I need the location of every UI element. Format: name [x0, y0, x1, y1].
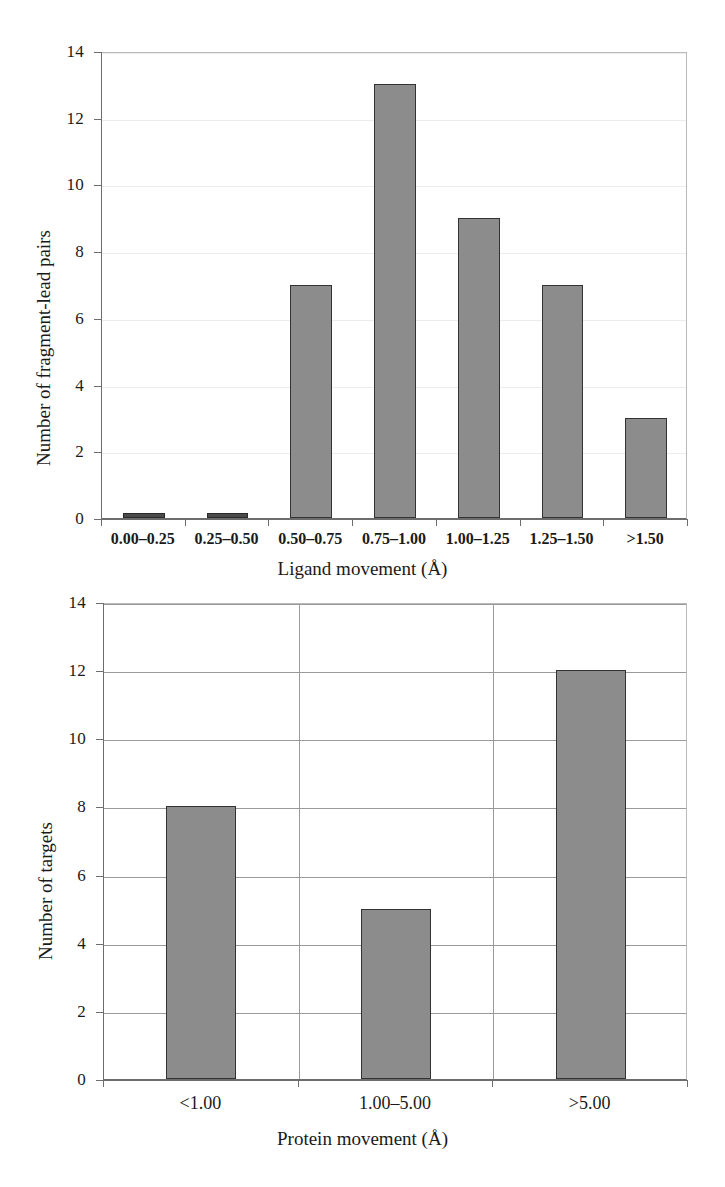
x-tick: [687, 1080, 688, 1087]
x-tick: [103, 1080, 104, 1087]
y-tick: [96, 739, 103, 740]
y-tick-label: 14: [33, 594, 86, 611]
bars-protein: [104, 604, 686, 1079]
y-tick: [96, 807, 103, 808]
bar: [166, 806, 236, 1079]
y-tick: [96, 1012, 103, 1013]
bar: [556, 670, 626, 1079]
bar: [361, 909, 431, 1079]
y-tick: [96, 876, 103, 877]
y-tick: [96, 671, 103, 672]
y-tick-label: 12: [33, 662, 86, 679]
x-axis-title-protein: Protein movement (Å): [0, 1128, 725, 1150]
x-axis-line-protein: [103, 1080, 688, 1081]
y-axis-line-protein: [103, 603, 104, 1081]
x-tick-label: >5.00: [492, 1094, 687, 1112]
y-tick-label: 8: [33, 798, 86, 815]
x-tick: [298, 1080, 299, 1087]
y-tick-label: 0: [33, 1071, 86, 1088]
y-tick: [96, 603, 103, 604]
y-tick-label: 10: [33, 730, 86, 747]
x-tick: [492, 1080, 493, 1087]
x-tick-label: <1.00: [103, 1094, 298, 1112]
figure-page: 02468101214 0.00–0.250.25–0.500.50–0.750…: [0, 0, 725, 1187]
x-tick-label: 1.00–5.00: [298, 1094, 493, 1112]
y-tick: [96, 1080, 103, 1081]
protein-movement-figure: 02468101214 <1.001.00–5.00>5.00 Protein …: [0, 0, 725, 1187]
plot-area-protein: [103, 603, 687, 1080]
y-tick: [96, 944, 103, 945]
y-axis-title-protein: Number of targets: [36, 822, 56, 960]
y-tick-label: 2: [33, 1003, 86, 1020]
